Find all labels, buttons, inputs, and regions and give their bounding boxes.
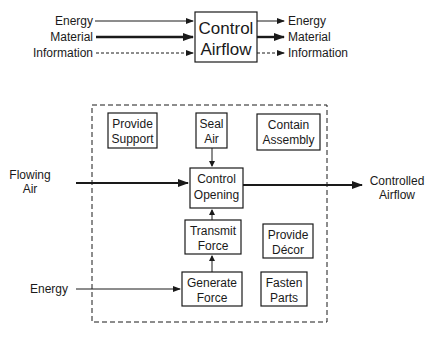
control-opening-line1: Control bbox=[197, 172, 236, 186]
provide-support-line1: Provide bbox=[112, 117, 153, 131]
function-generate-force: Generate Force bbox=[182, 272, 242, 306]
function-seal-air: Seal Air bbox=[196, 113, 227, 148]
seal-air-line1: Seal bbox=[199, 117, 223, 131]
controlled-airflow-label-line1: Controlled bbox=[370, 174, 425, 188]
fasten-parts-line2: Parts bbox=[270, 291, 298, 305]
function-provide-support: Provide Support bbox=[108, 113, 157, 148]
energy-input-label: Energy bbox=[30, 282, 68, 296]
top-function-line1: Control bbox=[199, 19, 254, 38]
fasten-parts-line1: Fasten bbox=[266, 276, 303, 290]
generate-force-line1: Generate bbox=[187, 276, 237, 290]
top-black-box: Energy Material Information Control Airf… bbox=[33, 12, 348, 62]
generate-force-line2: Force bbox=[197, 291, 228, 305]
transmit-force-line1: Transmit bbox=[190, 224, 237, 238]
transmit-force-line2: Force bbox=[198, 239, 229, 253]
function-structure: Flowing Air Controlled Airflow Energy Pr… bbox=[9, 105, 424, 322]
function-provide-decor: Provide Décor bbox=[263, 224, 313, 258]
top-function-line2: Airflow bbox=[200, 40, 252, 59]
controlled-airflow-label-line2: Airflow bbox=[379, 188, 415, 202]
control-opening-line2: Opening bbox=[194, 188, 239, 202]
flowing-air-label-line2: Air bbox=[23, 182, 38, 196]
function-transmit-force: Transmit Force bbox=[185, 220, 241, 254]
contain-assembly-line1: Contain bbox=[268, 118, 309, 132]
provide-support-line2: Support bbox=[111, 132, 154, 146]
provide-decor-line2: Décor bbox=[272, 243, 304, 257]
contain-assembly-line2: Assembly bbox=[262, 133, 314, 147]
top-input-energy-label: Energy bbox=[55, 14, 93, 28]
top-output-energy-label: Energy bbox=[288, 14, 326, 28]
function-fasten-parts: Fasten Parts bbox=[261, 272, 307, 306]
seal-air-line2: Air bbox=[204, 132, 219, 146]
function-contain-assembly: Contain Assembly bbox=[257, 114, 320, 150]
top-input-information-label: Information bbox=[33, 46, 93, 60]
function-control-opening: Control Opening bbox=[190, 168, 243, 208]
top-output-information-label: Information bbox=[288, 46, 348, 60]
provide-decor-line1: Provide bbox=[268, 228, 309, 242]
top-output-material-label: Material bbox=[288, 30, 331, 44]
flowing-air-label-line1: Flowing bbox=[9, 168, 50, 182]
functional-diagram: Energy Material Information Control Airf… bbox=[0, 0, 448, 340]
top-input-material-label: Material bbox=[50, 30, 93, 44]
